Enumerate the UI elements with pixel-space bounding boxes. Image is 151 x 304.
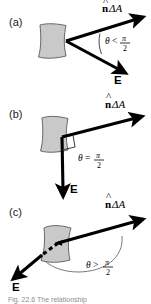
normal-label-c-n: n (105, 198, 111, 210)
panel-a-label: (a) (9, 16, 22, 28)
surface-patch-b (41, 116, 69, 152)
angle-denominator-a: 2 (123, 44, 127, 53)
panel-b-label: (b) (9, 108, 22, 120)
figure-canvas: (a) ^ n ΔA E θ < π 2 (b) (0, 0, 151, 304)
field-label-b: E (70, 183, 78, 195)
angle-relation-b: = (85, 153, 90, 163)
angle-symbol-b: θ (78, 153, 83, 163)
angle-symbol-c: θ (86, 260, 91, 270)
angle-symbol-a: θ (105, 36, 110, 46)
normal-label-c-rest: ΔA (111, 198, 125, 210)
normal-label-b-rest: ΔA (111, 98, 125, 110)
angle-denominator-b: 2 (97, 161, 101, 170)
angle-relation-a: < (112, 36, 117, 46)
angle-relation-c: > (93, 260, 98, 270)
physics-figure-flux-angles: (a) ^ n ΔA E θ < π 2 (b) (0, 0, 151, 304)
surface-patch-a (39, 24, 67, 59)
normal-label-b-n: n (105, 98, 111, 110)
panel-c-label: (c) (9, 206, 22, 218)
field-label-c: E (12, 281, 20, 293)
angle-denominator-c: 2 (106, 268, 110, 277)
field-vector-arrow-b (62, 137, 63, 190)
figure-caption: Fig. 22.6 The relationship (8, 296, 87, 304)
normal-label-a-rest: ΔA (108, 2, 122, 14)
caption-text: Fig. 22.6 The relationship (8, 296, 87, 304)
normal-label-a-n: n (102, 2, 108, 14)
field-label-a: E (114, 74, 122, 86)
normal-label-a: ^ n ΔA (102, 0, 122, 14)
